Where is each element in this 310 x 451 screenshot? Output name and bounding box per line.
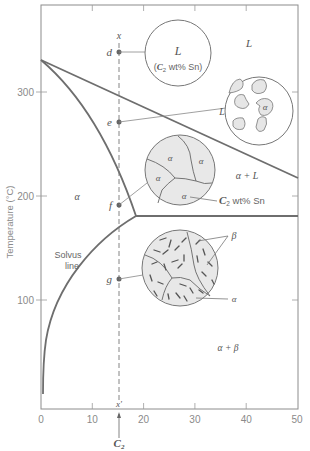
circle1-composition-label: (C2 wt% Sn) — [154, 62, 202, 73]
y-axis-title: Temperature (°C) — [4, 186, 15, 259]
c2-marker-label: C2 — [114, 437, 125, 451]
x-tick-label-10: 10 — [87, 414, 99, 425]
point-e-label: e — [107, 116, 112, 128]
microstructure-e-liquid-alpha: L α — [218, 77, 293, 145]
point-g-label: g — [107, 273, 113, 285]
region-label-L: L — [245, 37, 252, 49]
circle2-L-label: L — [218, 106, 225, 117]
point-f-label: f — [109, 199, 114, 211]
microstructure-g-alpha-beta: β α — [142, 230, 237, 306]
x-bottom-label: x' — [115, 399, 123, 409]
solvus-line — [43, 216, 136, 394]
circle3-alpha-label-4: α — [182, 191, 187, 201]
x-tick-label-40: 40 — [241, 414, 253, 425]
x-tick-label-30: 30 — [189, 414, 201, 425]
circle4-alpha-label: α — [232, 294, 237, 304]
region-label-alpha-beta: α + β — [218, 343, 239, 353]
y-tick-label-300: 300 — [17, 87, 34, 98]
y-tick-label-200: 200 — [17, 191, 34, 202]
solvus-label-line1: Solvus — [54, 250, 82, 260]
y-tick-label-100: 100 — [17, 295, 34, 306]
circle3-alpha-label-3: α — [156, 173, 161, 183]
x-tick-label-50: 50 — [291, 414, 303, 425]
point-d-label: d — [107, 46, 113, 58]
x-tick-label-20: 20 — [138, 414, 150, 425]
circle2-alpha-label: α — [263, 102, 268, 112]
circle4-beta-label: β — [231, 230, 237, 241]
solvus-label-line2: line — [65, 261, 79, 271]
circle3-alpha-label-2: α — [199, 156, 204, 166]
circle1-L-label: L — [174, 44, 182, 58]
x-tick-label-0: 0 — [38, 414, 44, 425]
circle3-composition-label: C2 wt% Sn — [219, 194, 265, 207]
region-label-alpha-L: α + L — [236, 170, 259, 181]
phase-diagram: 0 10 20 30 40 50 300 200 100 Temperature… — [0, 0, 310, 451]
x-top-label: x — [116, 30, 122, 41]
c2-arrow-icon — [117, 412, 121, 438]
circle3-alpha-label-1: α — [168, 153, 173, 163]
region-label-alpha: α — [74, 191, 80, 202]
solidus-line — [41, 60, 136, 216]
microstructure-d-liquid: L (C2 wt% Sn) — [145, 20, 211, 86]
